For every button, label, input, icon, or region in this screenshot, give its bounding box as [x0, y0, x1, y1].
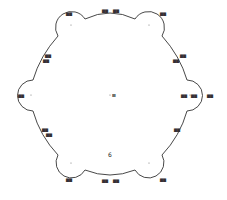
vertex-label: ▆▆ [65, 177, 73, 182]
edge-label: ▆▆ [45, 132, 53, 137]
vertex-label: ▆▆ [17, 93, 25, 98]
diagram-canvas: ▆▆ ▆▆ ▆▆ ▆▆ ▆▆ ▆▆ ▆▆ ▆▆ ▆▆ ▆▆ ▆▆ ▆▆ ▆▆ ▆… [0, 0, 227, 200]
edge-label: ▆▆ [101, 8, 109, 13]
vertex-label: ▆▆ [65, 11, 73, 16]
center-dot [70, 162, 71, 163]
vertex-circle-bottom-right [135, 155, 164, 178]
center-dot [70, 24, 71, 25]
center-dot [148, 162, 149, 163]
edge-label: ▆▆ [42, 58, 50, 63]
vertex-label: ▆▆ [206, 93, 214, 98]
center-label: Ⅲ [112, 93, 116, 98]
vertex-label: ▆▆ [159, 11, 167, 16]
edge-label: ▆▆ [112, 8, 120, 13]
edge-label: ▆▆ [190, 93, 198, 98]
edge-label: ▆▆ [179, 53, 187, 58]
vertex-circle-bottom-left [56, 155, 85, 178]
edge-lower-right [162, 111, 187, 155]
edge-label: ▆▆ [173, 127, 181, 132]
count-label: 6 [108, 151, 112, 158]
edge-label: ▆▆ [180, 93, 188, 98]
center-dot [30, 94, 31, 95]
vertex-label: ▆▆ [159, 177, 167, 182]
edge-top [85, 13, 135, 19]
center-dot [109, 94, 110, 95]
edge-label: ▆▆ [172, 58, 180, 63]
edge-bottom [85, 170, 135, 175]
edge-label: ▆▆ [112, 178, 120, 183]
edge-label: ▆▆ [101, 178, 109, 183]
center-dot [148, 24, 149, 25]
